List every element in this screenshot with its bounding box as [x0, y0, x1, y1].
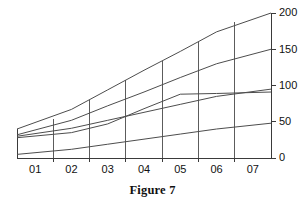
chart-axes	[17, 13, 271, 158]
y-tick-label: 100	[279, 79, 297, 91]
x-tick-label: 06	[210, 163, 222, 175]
figure-container: 050100150200 01020304050607 Figure 7	[0, 0, 305, 209]
x-tick-label: 02	[65, 163, 77, 175]
series-line-series-4	[17, 89, 271, 136]
x-axis-tick-labels: 01020304050607	[29, 163, 259, 175]
x-tick-label: 07	[247, 163, 259, 175]
y-tick-label: 150	[279, 43, 297, 55]
x-tick-label: 03	[102, 163, 114, 175]
y-tick-label: 0	[279, 151, 285, 163]
series-line-series-2	[17, 49, 271, 135]
grid-lines	[53, 22, 234, 158]
y-tick-label: 200	[279, 6, 297, 18]
series-line-series-1	[17, 13, 271, 129]
y-tick-label: 50	[279, 115, 291, 127]
x-tick-label: 05	[174, 163, 186, 175]
figure-caption: Figure 7	[0, 183, 305, 198]
axis-tick-marks	[53, 13, 276, 162]
x-tick-label: 01	[29, 163, 41, 175]
x-tick-label: 04	[138, 163, 150, 175]
data-series-lines	[17, 13, 271, 154]
line-chart: 050100150200 01020304050607	[0, 0, 305, 209]
series-line-series-5	[17, 123, 271, 154]
y-axis-tick-labels: 050100150200	[279, 6, 297, 163]
